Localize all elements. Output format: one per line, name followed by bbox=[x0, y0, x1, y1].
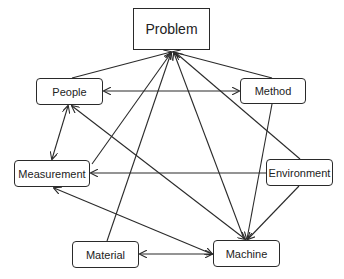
node-material-label: Material bbox=[86, 249, 125, 261]
edge-material-problem bbox=[107, 53, 171, 241]
node-material: Material bbox=[72, 241, 139, 268]
node-machine: Machine bbox=[213, 240, 280, 267]
node-method: Method bbox=[240, 78, 306, 104]
node-measurement-label: Measurement bbox=[18, 168, 85, 180]
node-people-label: People bbox=[52, 86, 86, 98]
edge-people-measurement bbox=[52, 106, 68, 159]
node-machine-label: Machine bbox=[226, 248, 268, 260]
node-problem: Problem bbox=[133, 8, 210, 50]
cause-effect-diagram: Problem People Method Measurement Enviro… bbox=[0, 0, 344, 279]
node-problem-label: Problem bbox=[145, 21, 197, 37]
node-method-label: Method bbox=[255, 85, 292, 97]
node-people: People bbox=[36, 78, 103, 105]
node-measurement: Measurement bbox=[14, 160, 90, 187]
node-environment-label: Environment bbox=[269, 167, 331, 179]
edge-method-problem bbox=[173, 52, 272, 78]
node-environment: Environment bbox=[266, 159, 333, 186]
